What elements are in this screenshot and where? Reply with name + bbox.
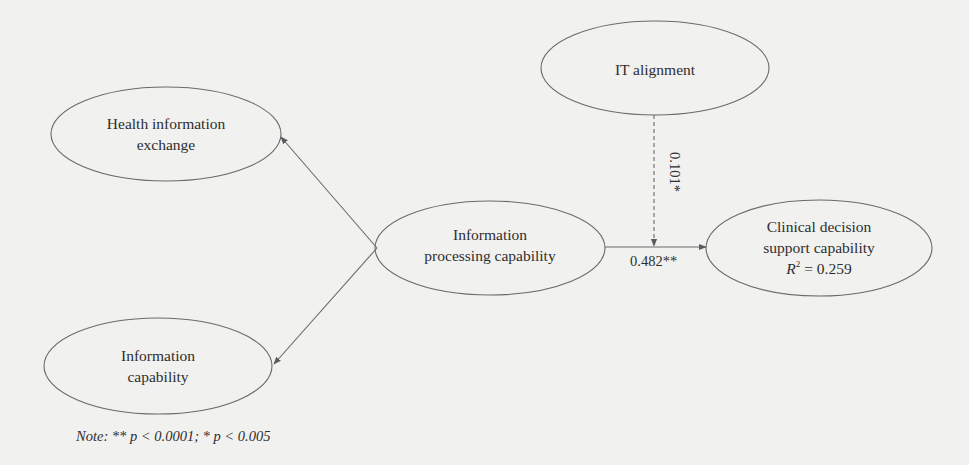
- node-label-line: support capability: [763, 237, 875, 258]
- node-it-alignment: IT alignment: [615, 59, 695, 80]
- node-label-line: Information: [121, 345, 195, 366]
- node-label-line: capability: [121, 366, 195, 387]
- node-label-line: Health information: [107, 113, 225, 134]
- r-squared-symbol: R: [786, 260, 795, 277]
- note-p-symbol: p: [213, 428, 220, 444]
- node-information-processing-capability: Information processing capability: [424, 224, 555, 266]
- significance-note: Note: ** p < 0.0001; * p < 0.005: [76, 428, 270, 445]
- node-clinical-decision-support-capability: Clinical decision support capability R2 …: [763, 216, 875, 279]
- node-label-line: Clinical decision: [763, 216, 875, 237]
- path-coefficient-moderation: 0.101*: [666, 152, 683, 192]
- edge-processing-to-health-exchange: [281, 137, 377, 248]
- r-squared-value: R2 = 0.259: [763, 258, 875, 279]
- note-threshold-1: < 0.0001;: [137, 428, 202, 444]
- node-information-capability: Information capability: [121, 345, 195, 387]
- node-label-line: exchange: [107, 134, 225, 155]
- edge-processing-to-information-capability: [274, 248, 377, 364]
- node-label-line: processing capability: [424, 245, 555, 266]
- note-prefix: Note:: [76, 428, 112, 444]
- node-label-line: IT alignment: [615, 59, 695, 80]
- note-threshold-2: < 0.005: [221, 428, 271, 444]
- r-squared-number: = 0.259: [800, 260, 851, 277]
- node-health-information-exchange: Health information exchange: [107, 113, 225, 155]
- node-label-line: Information: [424, 224, 555, 245]
- note-single-star: *: [203, 428, 214, 444]
- path-coefficient-main: 0.482**: [630, 253, 677, 270]
- note-double-star: **: [112, 428, 130, 444]
